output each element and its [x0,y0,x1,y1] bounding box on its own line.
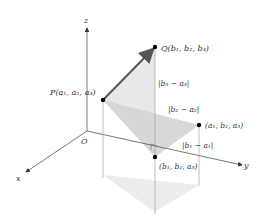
point-b1-b2-a3-label: (b₁, b₂, a₃) [159,162,198,171]
origin-label: O [81,137,88,146]
point-a1-b2-a3 [197,123,201,127]
point-a1-b2-a3-label: (a₁, b₂, a₃) [205,121,243,130]
point-q-label: Q(b₁, b₂, b₃) [161,44,209,53]
point-b1-b2-a3 [153,155,157,159]
dz-label: |b₃ − a₃| [158,79,189,88]
diagram-canvas: z x y O Q(b₁, b₂, b₃) P(a₁, a₂, a₃) (a₁,… [0,0,263,220]
z-axis-label: z [83,16,89,25]
x-axis-label: x [16,174,21,183]
projection-shade [103,175,199,212]
dy-label: |b₂ − a₂| [168,105,199,114]
point-p [101,98,105,102]
dx-label: |b₁ − a₁| [182,141,213,150]
distance-3d-diagram: z x y O Q(b₁, b₂, b₃) P(a₁, a₂, a₃) (a₁,… [0,0,263,220]
y-axis-label: y [243,161,249,170]
point-q [153,45,157,49]
x-axis [26,131,87,172]
point-p-label: P(a₁, a₂, a₃) [49,88,96,97]
